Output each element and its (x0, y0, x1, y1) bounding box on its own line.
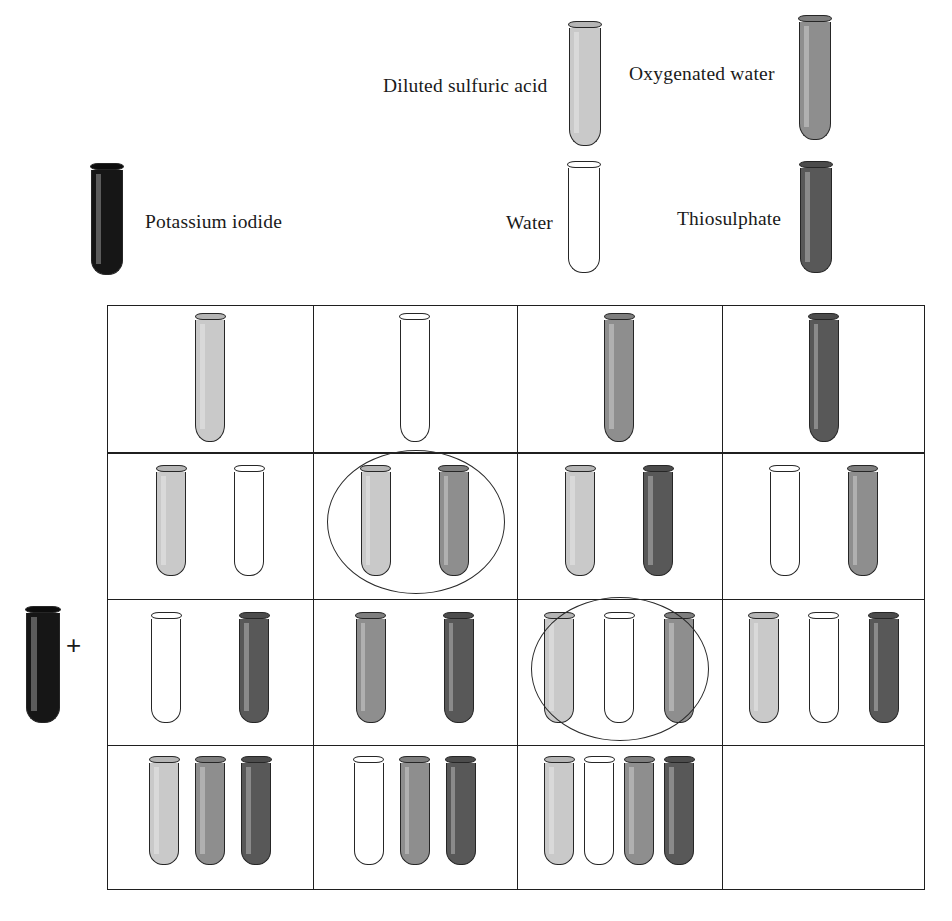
tube-gloss (451, 767, 455, 854)
grid-cell-contents (722, 599, 927, 745)
tube-slot-acid (361, 472, 391, 576)
grid-cell-r4c4[interactable] (722, 745, 927, 891)
tube-rim (151, 612, 182, 619)
test-tube-thio (446, 763, 476, 865)
tube-rim (567, 161, 600, 168)
tube-rim (624, 756, 655, 763)
tube-gloss (853, 476, 857, 565)
tube-gloss (200, 767, 204, 854)
tube-gloss (154, 767, 158, 854)
grid-cell-r4c3[interactable] (517, 745, 722, 891)
tube-gloss (669, 623, 673, 712)
grid-cell-contents (108, 452, 313, 598)
tube-slot-oxy (439, 472, 469, 576)
grid-cell-contents (517, 452, 722, 598)
grid-cell-r2c4[interactable] (722, 452, 927, 598)
test-tube-thio (664, 763, 694, 865)
legend-test-tube-water (568, 168, 600, 273)
test-tube-oxy (604, 320, 634, 442)
grid-cell-r3c2[interactable] (313, 599, 518, 745)
tube-slot-water (151, 619, 181, 723)
tube-rim (443, 612, 474, 619)
test-tube-water (234, 472, 264, 576)
test-tube-thio (241, 763, 271, 865)
tube-gloss (244, 623, 248, 712)
tube-slot-thio (239, 619, 269, 723)
grid-cell-r1c2[interactable] (313, 306, 518, 452)
grid-cell-contents (517, 306, 722, 452)
tube-rim (808, 313, 839, 320)
test-tube-oxy (624, 763, 654, 865)
tube-slot-thio (664, 763, 694, 865)
test-tube-acid (749, 619, 779, 723)
tube-slot-acid (565, 472, 595, 576)
legend-label-thio: Thiosulphate (677, 208, 781, 230)
test-tube-oxy (664, 619, 694, 723)
tube-rim (664, 612, 695, 619)
grid-cell-contents (517, 599, 722, 745)
legend-label-iodide: Potassium iodide (145, 211, 282, 233)
test-tube-acid (565, 472, 595, 576)
grid-cell-r1c4[interactable] (722, 306, 927, 452)
tube-slot-water (400, 320, 430, 442)
tube-slot-acid (544, 619, 574, 723)
tube-rim (399, 313, 430, 320)
tube-gloss (449, 623, 453, 712)
grid-cell-r1c1[interactable] (108, 306, 313, 452)
grid-cell-r2c2[interactable] (313, 452, 518, 598)
reactant-potassium-iodide-tube (26, 613, 60, 723)
plus-symbol: + (66, 630, 81, 661)
tube-rim (565, 465, 596, 472)
tube-slot-acid (544, 763, 574, 865)
tube-slot-acid (149, 763, 179, 865)
test-tube-water (584, 763, 614, 865)
tube-gloss (31, 617, 36, 711)
grid-cell-r3c1[interactable] (108, 599, 313, 745)
test-tube-oxy (439, 472, 469, 576)
legend-tube-water (568, 168, 600, 273)
tube-slot-thio (241, 763, 271, 865)
legend-tube-acid (569, 28, 601, 146)
tube-rim (604, 313, 635, 320)
legend-label-acid: Diluted sulfuric acid (383, 75, 548, 97)
test-tube-thio (809, 320, 839, 442)
legend-tube-iodide (91, 170, 123, 275)
grid-cell-contents (722, 745, 927, 891)
tube-slot-oxy (356, 619, 386, 723)
tube-gloss (156, 623, 160, 712)
grid-cell-r4c2[interactable] (313, 745, 518, 891)
tube-gloss (361, 623, 365, 712)
tube-rim (234, 465, 265, 472)
tube-gloss (405, 324, 409, 429)
tube-gloss (629, 767, 633, 854)
grid-cell-contents (722, 452, 927, 598)
tube-gloss (754, 623, 758, 712)
tube-gloss (405, 767, 409, 854)
grid-cell-r3c3[interactable] (517, 599, 722, 745)
tube-slot-thio (869, 619, 899, 723)
legend-tube-oxy (799, 22, 831, 140)
reactant-test-tube-iodide (26, 613, 60, 723)
tube-gloss (570, 476, 574, 565)
tube-gloss (239, 476, 243, 565)
test-tube-water (809, 619, 839, 723)
tube-gloss (814, 623, 818, 712)
grid-cell-contents (108, 745, 313, 891)
tube-rim (769, 465, 800, 472)
grid-cell-r4c1[interactable] (108, 745, 313, 891)
grid-cell-r2c1[interactable] (108, 452, 313, 598)
test-tube-acid (149, 763, 179, 865)
tube-slot-water (584, 763, 614, 865)
tube-slot-oxy (848, 472, 878, 576)
tube-rim (584, 756, 615, 763)
tube-rim (149, 756, 180, 763)
grid-cell-contents (313, 306, 518, 452)
grid-cell-r3c4[interactable] (722, 599, 927, 745)
tube-gloss (359, 767, 363, 854)
test-tube-thio (869, 619, 899, 723)
grid-cell-r2c3[interactable] (517, 452, 722, 598)
tube-rim (25, 606, 60, 613)
test-tube-thio (444, 619, 474, 723)
tube-slot-water (809, 619, 839, 723)
grid-cell-r1c3[interactable] (517, 306, 722, 452)
